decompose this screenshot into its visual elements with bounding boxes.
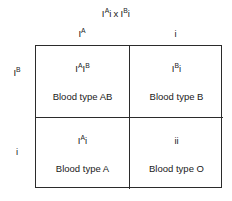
- punnett-cell-bottom-left: IAi Blood type A: [36, 118, 130, 189]
- column-header-1-tail: i: [174, 28, 176, 39]
- phenotype-top-left: Blood type AB: [53, 91, 113, 102]
- row-header-0: IB: [2, 67, 32, 78]
- genotype-top-left: IAIB: [75, 63, 89, 74]
- genotype-bottom-left-tail: i: [85, 135, 87, 146]
- phenotype-bottom-left: Blood type A: [56, 163, 109, 174]
- punnett-cell-bottom-right: ii Blood type O: [130, 118, 223, 189]
- parent2-tail: i: [128, 8, 130, 19]
- column-header-0-superscript: A: [81, 27, 86, 34]
- row-header-0-superscript: B: [16, 66, 21, 73]
- punnett-square-diagram: IAixIBi IA i IB i IAIB Blood type AB IBi…: [0, 0, 232, 201]
- genotype-top-right-tail: i: [179, 63, 181, 74]
- genotype-bottom-right: ii: [174, 135, 178, 146]
- parent1-genotype: IAi: [102, 8, 112, 19]
- punnett-grid: IAIB Blood type AB IBi Blood type B IAi …: [35, 45, 222, 188]
- phenotype-bottom-right: Blood type O: [149, 163, 204, 174]
- parent2-genotype: IBi: [120, 8, 130, 19]
- row-header-1: i: [2, 146, 32, 157]
- cross-notation-title: IAixIBi: [0, 8, 232, 19]
- phenotype-top-right: Blood type B: [150, 91, 204, 102]
- column-header-0: IA: [35, 28, 129, 39]
- genotype-top-left-sup2: B: [85, 62, 90, 69]
- genotype-bottom-right-tail: ii: [174, 135, 178, 146]
- punnett-cell-top-right: IBi Blood type B: [130, 46, 223, 118]
- genotype-top-right: IBi: [172, 63, 181, 74]
- row-header-1-tail: i: [16, 146, 18, 157]
- genotype-bottom-left: IAi: [78, 135, 87, 146]
- column-header-1: i: [129, 28, 222, 39]
- punnett-cell-top-left: IAIB Blood type AB: [36, 46, 130, 118]
